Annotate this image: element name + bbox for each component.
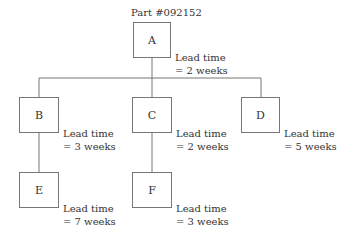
node-label: E	[35, 184, 43, 197]
lead-time-D: Lead time= 5 weeks	[284, 127, 337, 153]
lead-label: Lead time	[176, 127, 229, 140]
lead-value: = 3 weeks	[63, 140, 116, 153]
node-label: F	[148, 184, 156, 197]
node-B: B	[19, 97, 59, 133]
lead-label: Lead time	[63, 127, 116, 140]
lead-value: = 2 weeks	[175, 64, 228, 77]
bill-of-materials-diagram: Part #092152 A Lead time= 2 weeks B Lead…	[0, 0, 344, 237]
node-label: B	[35, 109, 43, 122]
lead-time-E: Lead time= 7 weeks	[63, 202, 116, 228]
node-A: A	[133, 22, 171, 58]
lead-time-C: Lead time= 2 weeks	[176, 127, 229, 153]
lead-value: = 2 weeks	[176, 140, 229, 153]
lead-value: = 7 weeks	[63, 215, 116, 228]
lead-label: Lead time	[63, 202, 116, 215]
node-D: D	[241, 97, 280, 133]
node-C: C	[132, 97, 172, 133]
node-label: D	[256, 109, 265, 122]
node-F: F	[132, 172, 172, 208]
node-label: A	[148, 34, 156, 47]
lead-time-F: Lead time= 3 weeks	[176, 202, 229, 228]
lead-time-B: Lead time= 3 weeks	[63, 127, 116, 153]
lead-value: = 3 weeks	[176, 215, 229, 228]
lead-value: = 5 weeks	[284, 140, 337, 153]
node-E: E	[19, 172, 59, 208]
part-number-title: Part #092152	[131, 7, 202, 18]
lead-time-A: Lead time= 2 weeks	[175, 51, 228, 77]
lead-label: Lead time	[176, 202, 229, 215]
node-label: C	[148, 109, 156, 122]
lead-label: Lead time	[175, 51, 228, 64]
lead-label: Lead time	[284, 127, 337, 140]
